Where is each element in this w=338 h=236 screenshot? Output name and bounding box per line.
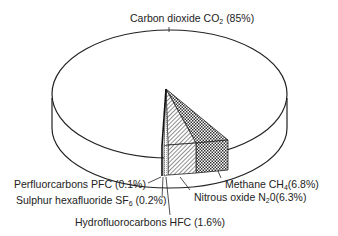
label-pfc: Perfluorcarbons PFC (0.1%) — [14, 178, 146, 190]
label-n2o: Nitrous oxide N20(6.3%) — [194, 191, 306, 207]
slice-n2o-front — [168, 143, 196, 175]
label-hfc: Hydrofluorocarbons HFC (1.6%) — [75, 216, 225, 228]
label-sf6: Sulphur hexafluoride SF6 (0.2%) — [16, 194, 166, 210]
slice-ch4-front — [196, 140, 228, 173]
slice-hfc-front — [164, 145, 168, 176]
label-co2: Carbon dioxide CO2 (85%) — [130, 12, 254, 28]
